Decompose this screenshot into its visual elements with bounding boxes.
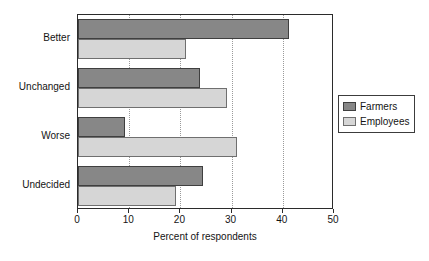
chart-legend: Farmers Employees (338, 95, 415, 133)
x-tick-mark (128, 209, 129, 213)
x-tick-mark (179, 209, 180, 213)
bar-chart: BetterUnchangedWorseUndecided01020304050… (0, 0, 429, 261)
legend-label-farmers: Farmers (360, 101, 397, 112)
x-axis-title: Percent of respondents (77, 231, 333, 243)
bar-worse-farmers (78, 117, 125, 137)
x-tick-mark (231, 209, 232, 213)
x-tick-mark (282, 209, 283, 213)
legend-swatch-farmers-icon (343, 102, 356, 111)
plot-area (77, 14, 333, 209)
y-axis-label-undecided: Undecided (22, 179, 70, 190)
x-tick-label-50: 50 (318, 214, 348, 226)
legend-swatch-employees-icon (343, 117, 356, 126)
x-tick-mark (77, 209, 78, 213)
y-axis-label-better: Better (43, 32, 70, 43)
plot-inner (78, 15, 332, 208)
x-tick-label-20: 20 (164, 214, 194, 226)
bar-better-farmers (78, 19, 289, 39)
bar-better-employees (78, 39, 186, 59)
y-axis-label-worse: Worse (41, 130, 70, 141)
x-tick-mark (333, 209, 334, 213)
bar-unchanged-employees (78, 88, 227, 108)
gridline (283, 15, 284, 208)
x-tick-label-40: 40 (267, 214, 297, 226)
bar-unchanged-farmers (78, 68, 200, 88)
legend-label-employees: Employees (360, 116, 409, 127)
bar-undecided-farmers (78, 166, 203, 186)
bar-undecided-employees (78, 186, 176, 206)
gridline (232, 15, 233, 208)
x-tick-label-0: 0 (62, 214, 92, 226)
legend-item-employees: Employees (343, 115, 409, 128)
x-tick-label-10: 10 (113, 214, 143, 226)
legend-item-farmers: Farmers (343, 100, 409, 113)
y-axis-label-unchanged: Unchanged (19, 81, 70, 92)
x-tick-label-30: 30 (216, 214, 246, 226)
bar-worse-employees (78, 137, 237, 157)
